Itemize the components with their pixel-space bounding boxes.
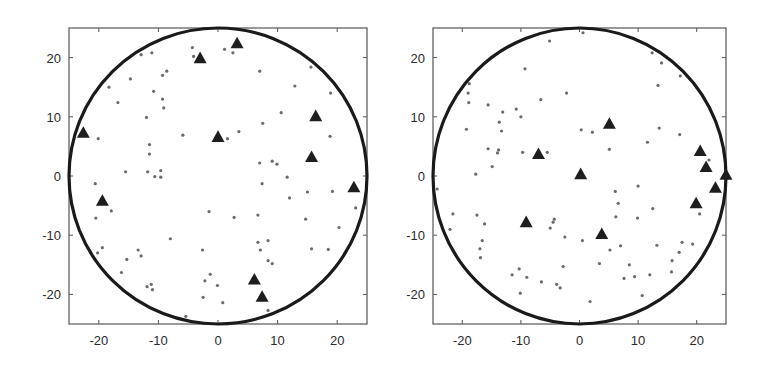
dot-marker [581, 239, 584, 242]
y-tick-label: -20 [406, 287, 425, 302]
y-tick-label: 0 [418, 169, 425, 184]
dot-marker [475, 213, 478, 216]
dot-marker [181, 134, 184, 137]
x-tick-label: 0 [214, 333, 221, 348]
dot-marker [231, 51, 234, 54]
dot-marker [261, 182, 264, 185]
dot-marker [124, 170, 127, 173]
y-tick-label: 10 [411, 110, 425, 125]
dot-marker [150, 51, 153, 54]
dot-marker [467, 101, 470, 104]
dot-marker [436, 187, 439, 190]
dot-marker [304, 218, 307, 221]
dot-marker [286, 176, 289, 179]
dot-marker [552, 221, 555, 224]
dot-marker [651, 207, 654, 210]
dot-marker [501, 110, 504, 113]
dot-marker [266, 309, 269, 312]
dot-marker [256, 213, 259, 216]
dot-marker [614, 190, 617, 193]
dot-marker [707, 158, 710, 161]
dot-marker [648, 273, 651, 276]
dot-marker [101, 246, 104, 249]
dot-marker [646, 141, 649, 144]
left-scatter-panel: -20-1001020-20-1001020 [42, 28, 367, 348]
dot-marker [498, 121, 501, 124]
dot-marker [120, 271, 123, 274]
dot-marker [184, 315, 187, 318]
dot-marker [651, 51, 654, 54]
dot-marker [559, 286, 562, 289]
dot-marker [159, 176, 162, 179]
dot-marker [679, 74, 682, 77]
dot-marker [655, 244, 658, 247]
dot-marker [622, 277, 625, 280]
x-tick-label: 20 [330, 333, 344, 348]
y-tick-label: 20 [47, 51, 61, 66]
x-tick-label: 0 [576, 333, 583, 348]
dot-marker [486, 147, 489, 150]
dot-marker [553, 218, 556, 221]
dot-marker [539, 98, 542, 101]
x-tick-label: -20 [89, 333, 108, 348]
dot-marker [641, 294, 644, 297]
dot-marker [137, 248, 140, 251]
dot-marker [548, 39, 551, 42]
dot-marker [275, 163, 278, 166]
dot-marker [561, 265, 564, 268]
dot-marker [145, 285, 148, 288]
dot-marker [153, 175, 156, 178]
figure: -20-1001020-20-1001020 -20-1001020-20-10… [0, 0, 766, 366]
dot-marker [140, 254, 143, 257]
dot-marker [151, 288, 154, 291]
dot-marker [580, 128, 583, 131]
dot-marker [474, 173, 477, 176]
dot-marker [546, 151, 549, 154]
dot-marker [116, 101, 119, 104]
dot-marker [107, 86, 110, 89]
dot-marker [549, 226, 552, 229]
dot-marker [486, 103, 489, 106]
dot-marker [191, 46, 194, 49]
dot-marker [306, 190, 309, 193]
dot-marker [698, 212, 701, 215]
dot-marker [207, 210, 210, 213]
dot-marker [110, 209, 113, 212]
x-tick-label: 10 [270, 333, 284, 348]
dot-marker [628, 263, 631, 266]
dot-marker [483, 222, 486, 225]
x-tick-label: 10 [631, 333, 645, 348]
dot-marker [140, 53, 143, 56]
dot-marker [293, 84, 296, 87]
x-tick-label: 20 [689, 333, 703, 348]
dot-marker [479, 256, 482, 259]
dot-marker [633, 275, 636, 278]
dot-marker [465, 128, 468, 131]
dot-marker [148, 143, 151, 146]
dot-marker [125, 258, 128, 261]
dot-marker [226, 137, 229, 140]
dot-marker [309, 65, 312, 68]
dot-marker [209, 273, 212, 276]
dot-marker [519, 115, 522, 118]
dot-marker [637, 184, 640, 187]
dot-marker [169, 237, 172, 240]
dot-marker [518, 267, 521, 270]
dot-marker [519, 292, 522, 295]
dot-marker [216, 284, 219, 287]
dot-marker [94, 216, 97, 219]
dot-marker [523, 67, 526, 70]
dot-marker [327, 248, 330, 251]
dot-marker [680, 241, 683, 244]
dot-marker [280, 111, 283, 114]
dot-marker [266, 239, 269, 242]
dot-marker [497, 148, 500, 151]
y-tick-label: 10 [47, 110, 61, 125]
x-tick-label: -10 [149, 333, 168, 348]
dot-marker [201, 248, 204, 251]
dot-marker [691, 242, 694, 245]
dot-marker [256, 241, 259, 244]
dot-marker [232, 216, 235, 219]
dot-marker [148, 152, 151, 155]
dot-marker [354, 206, 357, 209]
